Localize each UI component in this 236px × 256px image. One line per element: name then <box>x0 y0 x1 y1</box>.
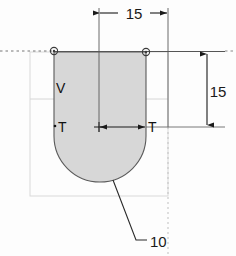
u-profile-shape <box>54 52 146 182</box>
label-tangent-left: T <box>58 119 67 135</box>
right-dimension-value: 15 <box>210 83 227 100</box>
label-vertex-v: V <box>56 80 66 96</box>
tangent-point-left-dot <box>54 125 57 128</box>
label-tangent-right: T <box>148 119 157 135</box>
technical-drawing-svg: 15 15 V T T 10 <box>0 0 236 256</box>
drawing-canvas: 15 15 V T T 10 <box>0 0 236 256</box>
top-dimension-value: 15 <box>126 5 143 22</box>
leader-label-10: 10 <box>150 233 167 250</box>
leader-line-10 <box>113 180 147 240</box>
